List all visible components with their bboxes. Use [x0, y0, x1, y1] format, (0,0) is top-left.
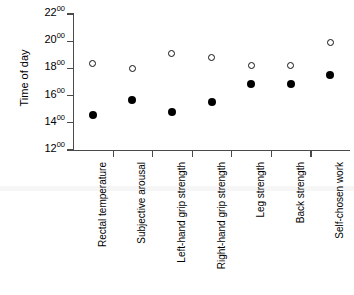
data-point-filled-circle [208, 98, 216, 106]
y-axis-tick-label: 1400 [44, 116, 65, 127]
x-axis-category-label: Subjective arousal [136, 162, 147, 244]
x-axis-line [73, 150, 350, 151]
y-axis-tick-label: 2000 [44, 34, 65, 45]
data-point-filled-circle [247, 80, 255, 88]
y-axis-tick [67, 68, 73, 69]
x-axis-category-label: Rectal temperature [97, 162, 108, 247]
x-axis-category-label: Self-chosen work [334, 162, 345, 239]
data-point-filled-circle [287, 80, 295, 88]
y-axis-title: Time of day [18, 18, 30, 138]
data-point-filled-circle [326, 71, 334, 79]
x-axis-category-label: Leg strength [255, 162, 266, 218]
data-point-open-circle [248, 62, 255, 69]
x-axis-tick [192, 151, 193, 157]
x-axis-tick [310, 151, 311, 157]
x-axis-category-label: Back strength [295, 162, 306, 223]
x-axis-category-label: Left-hand grip strength [176, 162, 187, 263]
y-axis-tick [67, 41, 73, 42]
data-point-filled-circle [168, 108, 176, 116]
x-axis-tick [271, 151, 272, 157]
y-axis-tick-label: 2200 [44, 7, 65, 18]
y-axis-line [73, 13, 74, 151]
data-point-open-circle [89, 60, 96, 67]
y-axis-tick-label: 1200 [44, 143, 65, 154]
y-axis-tick-label: 1800 [44, 61, 65, 72]
y-axis-tick-label: 1600 [44, 89, 65, 100]
x-axis-tick [152, 151, 153, 157]
data-point-open-circle [327, 39, 334, 46]
y-axis-tick [67, 122, 73, 123]
data-point-open-circle [208, 54, 215, 61]
chart-figure: Time of day 220020001800160014001200 Rec… [0, 0, 354, 295]
data-point-open-circle [168, 50, 175, 57]
data-point-filled-circle [128, 96, 136, 104]
data-point-open-circle [129, 65, 136, 72]
data-point-open-circle [287, 62, 294, 69]
x-axis-tick [231, 151, 232, 157]
y-axis-tick [67, 13, 73, 14]
y-axis-tick [67, 149, 73, 150]
data-point-filled-circle [89, 111, 97, 119]
y-axis-tick [67, 95, 73, 96]
x-axis-category-label: Right-hand grip strength [216, 162, 227, 269]
x-axis-tick [113, 151, 114, 157]
